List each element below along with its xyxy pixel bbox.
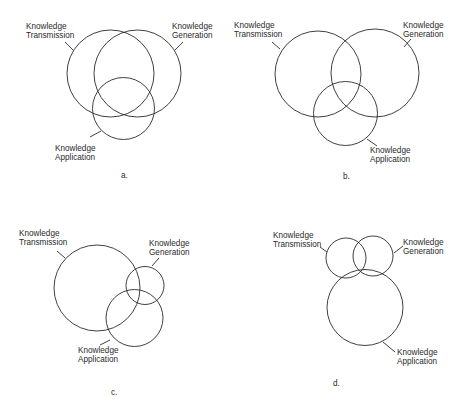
label-transmission-line2: Transmission: [26, 31, 75, 40]
circle-application: [93, 78, 155, 140]
label-generation: Knowledge: [403, 21, 444, 30]
venn-figure: Knowledge Transmission Knowledge Generat…: [0, 0, 462, 410]
label-generation-line2: Generation: [403, 30, 444, 39]
label-generation: Knowledge: [172, 22, 213, 31]
label-application-line2: Application: [370, 155, 411, 164]
panel-d: Knowledge Transmission Knowledge Generat…: [273, 231, 444, 388]
label-transmission: Knowledge: [26, 22, 67, 31]
leader-generation: [394, 246, 403, 253]
label-application: Knowledge: [370, 146, 411, 155]
leader-application: [383, 342, 395, 352]
label-transmission-line2: Transmission: [234, 30, 283, 39]
caption-d: d.: [333, 379, 340, 388]
label-transmission-line2: Transmission: [273, 240, 322, 249]
label-transmission-line2: Transmission: [19, 238, 68, 247]
label-application: Knowledge: [78, 346, 119, 355]
label-application: Knowledge: [397, 348, 438, 357]
label-transmission: Knowledge: [273, 231, 314, 240]
label-application-line2: Application: [78, 355, 119, 364]
label-application-line2: Application: [397, 357, 438, 366]
leader-application: [100, 340, 110, 345]
label-application: Knowledge: [55, 144, 96, 153]
label-generation: Knowledge: [149, 239, 190, 248]
caption-c: c.: [111, 388, 117, 397]
circle-application: [327, 270, 403, 346]
caption-a: a.: [121, 171, 128, 180]
circle-generation: [94, 30, 181, 117]
panel-b: Knowledge Transmission Knowledge Generat…: [234, 21, 444, 181]
leader-transmission: [272, 42, 280, 49]
circle-generation: [126, 267, 164, 305]
circle-transmission: [326, 238, 366, 278]
label-transmission: Knowledge: [234, 21, 275, 30]
label-generation-line2: Generation: [149, 248, 190, 257]
label-transmission: Knowledge: [19, 229, 60, 238]
leader-application: [367, 139, 377, 146]
label-generation-line2: Generation: [172, 31, 213, 40]
panel-a: Knowledge Transmission Knowledge Generat…: [26, 22, 213, 180]
circle-transmission: [67, 30, 154, 117]
leader-generation: [175, 42, 183, 50]
panel-c: Knowledge Transmission Knowledge Generat…: [19, 229, 190, 397]
circle-transmission: [275, 31, 361, 117]
circle-generation: [331, 29, 419, 117]
label-generation-line2: Generation: [403, 247, 444, 256]
label-generation: Knowledge: [403, 238, 444, 247]
leader-transmission: [57, 251, 65, 258]
leader-generation: [152, 258, 159, 266]
circle-transmission: [54, 245, 140, 331]
label-application-line2: Application: [55, 153, 96, 162]
leader-transmission: [65, 42, 73, 50]
circle-application: [314, 82, 378, 146]
circle-application: [106, 290, 163, 347]
leader-application: [90, 131, 101, 137]
caption-b: b.: [343, 172, 350, 181]
